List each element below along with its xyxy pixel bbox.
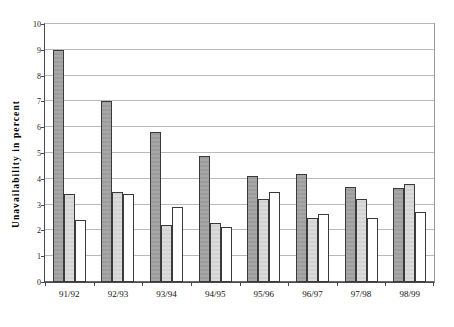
bar — [258, 199, 269, 282]
x-axis-tick-mark — [191, 282, 192, 286]
x-axis-tick-mark — [433, 282, 434, 286]
bar-group: 91/92 — [45, 24, 94, 282]
x-axis-tick-label: 98/99 — [399, 289, 420, 299]
bar-group: 98/99 — [385, 24, 434, 282]
bar-group-bars — [337, 24, 386, 282]
bar — [318, 214, 329, 282]
bar — [345, 187, 356, 282]
bar-chart: Unavailability in percent 012345678910 9… — [0, 0, 454, 327]
bar-group: 94/95 — [191, 24, 240, 282]
y-axis-tick-label: 10 — [33, 20, 41, 29]
y-axis-title-text: Unavailability in percent — [11, 99, 21, 227]
x-axis-tick-mark — [337, 282, 338, 286]
x-axis-tick-mark — [288, 282, 289, 286]
y-axis-title: Unavailability in percent — [4, 0, 28, 327]
bar — [296, 174, 307, 282]
x-axis-tick-mark — [94, 282, 95, 286]
x-axis-tick-mark — [240, 282, 241, 286]
bar — [75, 220, 86, 282]
bar — [112, 192, 123, 282]
bar — [172, 207, 183, 282]
bar — [150, 132, 161, 282]
x-axis-tick-mark — [45, 282, 46, 286]
bar-group-bars — [385, 24, 434, 282]
plot-area: 012345678910 91/9292/9393/9494/9595/9696… — [44, 23, 435, 283]
bar — [161, 225, 172, 282]
bar-groups: 91/9292/9393/9494/9595/9696/9797/9898/99 — [45, 24, 434, 282]
bar — [404, 184, 415, 282]
bar — [247, 176, 258, 282]
bar — [393, 188, 404, 282]
bar — [221, 227, 232, 282]
bar — [210, 223, 221, 282]
bar — [269, 192, 280, 282]
x-axis-tick-label: 94/95 — [205, 289, 226, 299]
bar-group: 92/93 — [94, 24, 143, 282]
bar-group-bars — [94, 24, 143, 282]
x-axis-tick-mark — [385, 282, 386, 286]
x-axis-tick-label: 96/97 — [302, 289, 323, 299]
bar-group-bars — [45, 24, 94, 282]
bar-group-bars — [191, 24, 240, 282]
bar-group-bars — [240, 24, 289, 282]
bar — [123, 194, 134, 282]
bar — [356, 199, 367, 282]
bar — [307, 218, 318, 283]
x-axis-tick-label: 91/92 — [59, 289, 80, 299]
x-axis-tick-label: 95/96 — [254, 289, 275, 299]
x-axis-tick-label: 92/93 — [108, 289, 129, 299]
bar-group-bars — [288, 24, 337, 282]
bar — [101, 101, 112, 282]
bar-group-bars — [142, 24, 191, 282]
bar — [64, 194, 75, 282]
bar-group: 95/96 — [240, 24, 289, 282]
bar-group: 93/94 — [142, 24, 191, 282]
x-axis-tick-mark — [142, 282, 143, 286]
bar — [53, 50, 64, 282]
bar — [199, 156, 210, 282]
bar-group: 96/97 — [288, 24, 337, 282]
bar-group: 97/98 — [337, 24, 386, 282]
bar — [415, 212, 426, 282]
x-axis-tick-label: 97/98 — [351, 289, 372, 299]
x-axis-tick-label: 93/94 — [156, 289, 177, 299]
bar — [367, 218, 378, 283]
